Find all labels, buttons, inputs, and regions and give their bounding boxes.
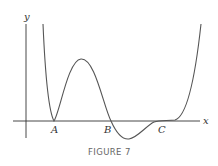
point-label-c: C [158,124,166,135]
y-axis-label: y [23,11,30,22]
x-axis-label: x [203,115,209,126]
figure-caption: FIGURE 7 [88,147,131,157]
point-label-a: A [50,124,58,135]
point-label-b: B [103,124,111,135]
function-graph: y x A B C FIGURE 7 [0,0,218,166]
figure-container: y x A B C FIGURE 7 [0,0,218,166]
function-curve [43,24,201,139]
